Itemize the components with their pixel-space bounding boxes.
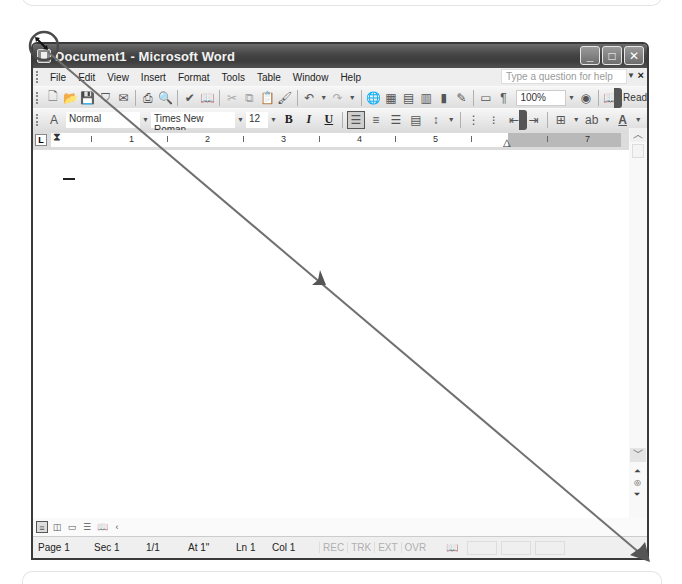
menu-format[interactable]: Format [172,72,216,83]
menu-window[interactable]: Window [287,72,335,83]
minimize-button[interactable]: _ [580,46,600,65]
print-icon[interactable]: ⎙ [140,89,156,107]
scroll-left-icon[interactable]: ‹ [111,521,123,533]
drawing-icon[interactable]: ✎ [454,89,470,107]
highlight-icon[interactable]: ab [583,111,601,129]
font-dropdown-icon[interactable]: ▼ [237,116,244,123]
undo-icon[interactable]: ↶ [302,89,318,107]
grip-handle[interactable] [36,92,39,104]
research-icon[interactable]: 📖 [200,89,216,107]
permission-icon[interactable]: ⛉ [98,89,114,107]
indent-marker-icon[interactable]: ⧗ [53,130,61,143]
cut-icon[interactable]: ✂ [224,89,240,107]
styles-formatting-icon[interactable]: A [45,111,63,129]
redo-dropdown-icon[interactable]: ▼ [349,94,356,101]
document-page[interactable] [33,150,647,518]
numbering-icon[interactable]: ⋮ [465,111,483,129]
align-left-icon[interactable]: ☰ [347,111,365,129]
insert-excel-icon[interactable]: ▥ [418,89,434,107]
help-icon[interactable]: ◉ [578,89,594,107]
menu-table[interactable]: Table [251,72,287,83]
save-icon[interactable]: 💾 [80,89,96,107]
paste-icon[interactable]: 📋 [259,89,275,107]
columns-icon[interactable]: ▮ [436,89,452,107]
grip-handle[interactable] [36,71,39,83]
font-color-dropdown-icon[interactable]: ▼ [635,116,642,123]
undo-dropdown-icon[interactable]: ▼ [320,94,327,101]
close-button[interactable]: ✕ [624,46,644,65]
font-size-select[interactable]: 12 [246,112,268,128]
bullets-icon[interactable]: ⁝ [485,111,503,129]
scroll-down-icon[interactable]: ﹀ [630,448,646,462]
line-spacing-icon[interactable]: ↕ [427,111,445,129]
redo-icon[interactable]: ↷ [330,89,346,107]
menu-tools[interactable]: Tools [216,72,251,83]
menu-view[interactable]: View [101,72,135,83]
grip-handle[interactable] [36,114,39,126]
bold-button[interactable]: B [280,111,298,129]
tab-selector-icon[interactable]: L [35,134,47,146]
previous-page-icon[interactable]: ⏶ [634,466,640,476]
font-size-dropdown-icon[interactable]: ▼ [270,116,277,123]
tables-borders-icon[interactable]: ▦ [383,89,399,107]
close-document-button[interactable]: × [638,69,644,81]
email-icon[interactable]: ✉ [115,89,131,107]
status-ext[interactable]: EXT [374,542,400,553]
hyperlink-icon[interactable]: 🌐 [366,89,382,107]
copy-icon[interactable]: ⧉ [242,89,258,107]
spelling-status-icon[interactable]: 📖 [441,542,463,553]
show-hide-icon[interactable]: ¶ [496,89,512,107]
open-icon[interactable]: 📂 [63,89,79,107]
title-bar[interactable]: Document1 - Microsoft Word _ □ ✕ [33,44,647,68]
web-layout-icon[interactable]: ◫ [51,521,63,533]
new-document-icon[interactable]: 🗋 [45,89,61,107]
word-app-icon[interactable] [37,49,51,63]
align-center-icon[interactable]: ≡ [367,111,385,129]
print-layout-icon[interactable]: ▭ [66,521,78,533]
read-button[interactable]: Read [623,92,647,103]
menu-insert[interactable]: Insert [135,72,172,83]
toolbar-options-icon[interactable] [519,110,527,130]
borders-dropdown-icon[interactable]: ▼ [573,116,580,123]
increase-indent-icon[interactable]: ⇥ [525,111,543,129]
status-rec[interactable]: REC [319,542,347,553]
menu-file[interactable]: File [44,72,72,83]
horizontal-ruler[interactable]: ⧗ 1 2 3 4 5 7 △ [51,133,621,147]
print-preview-icon[interactable]: 🔍 [158,89,174,107]
zoom-select[interactable]: 100% [516,90,566,106]
help-search-input[interactable]: Type a question for help [501,69,627,84]
font-select[interactable]: Times New Roman [151,112,235,128]
help-dropdown-icon[interactable]: ▼ [627,71,635,80]
borders-icon[interactable]: ⊞ [552,111,570,129]
browse-object-icon[interactable]: ◎ [634,478,641,487]
style-select[interactable]: Normal [66,112,140,128]
scroll-up-icon[interactable]: ︿ [630,128,646,142]
format-painter-icon[interactable]: 🖌 [277,89,293,107]
maximize-button[interactable]: □ [602,46,622,65]
scroll-thumb[interactable] [632,144,644,158]
status-ovr[interactable]: OVR [401,542,430,553]
underline-button[interactable]: U [320,111,338,129]
highlight-dropdown-icon[interactable]: ▼ [604,116,611,123]
menu-help[interactable]: Help [334,72,367,83]
reading-layout-icon[interactable]: 📖 [96,521,108,533]
next-page-icon[interactable]: ⏷ [634,490,640,500]
style-dropdown-icon[interactable]: ▼ [142,116,149,123]
insert-table-icon[interactable]: ▤ [401,89,417,107]
document-map-icon[interactable]: ▭ [478,89,494,107]
align-right-icon[interactable]: ☰ [387,111,405,129]
italic-button[interactable]: I [300,111,318,129]
line-spacing-dropdown-icon[interactable]: ▼ [448,116,455,123]
right-indent-marker-icon[interactable]: △ [503,137,511,148]
zoom-dropdown-icon[interactable]: ▼ [568,94,575,101]
status-trk[interactable]: TRK [347,542,374,553]
vertical-scrollbar[interactable]: ︿ ﹀ ⏶ ◎ ⏷ [629,128,647,520]
normal-view-icon[interactable]: ≡ [36,521,48,533]
toolbar-options-icon[interactable] [614,88,622,108]
font-color-icon[interactable]: A [614,111,632,129]
justify-icon[interactable]: ▤ [407,111,425,129]
spelling-icon[interactable]: ✔ [182,89,198,107]
outline-view-icon[interactable]: ☰ [81,521,93,533]
text-cursor [63,178,75,180]
menu-edit[interactable]: Edit [72,72,101,83]
